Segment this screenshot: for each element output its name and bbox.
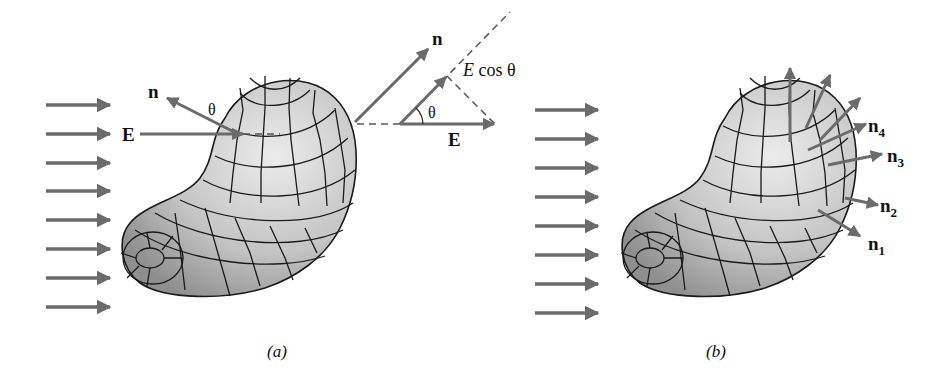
caption-a: (a)	[267, 342, 287, 361]
incident-field-arrows	[46, 105, 110, 307]
inset-angle-arc	[416, 108, 423, 124]
label-theta: θ	[208, 101, 216, 118]
label-n3: n3	[887, 145, 905, 170]
inset-component-vector	[400, 77, 446, 124]
panel-b: n4 n3 n2 n1 (b)	[535, 68, 905, 361]
label-n2: n2	[880, 195, 897, 220]
inset-label-n: n	[432, 28, 443, 49]
label-n1: n1	[868, 233, 885, 258]
label-e-cos-theta: E cos θ	[462, 60, 516, 80]
inset-label-theta: θ	[428, 104, 436, 121]
inset-dashed-projection	[447, 76, 495, 124]
inset-label-e: E	[448, 129, 461, 150]
label-e: E	[122, 124, 135, 145]
incident-field-arrows-b	[535, 110, 598, 313]
panel-a: n E θ n θ E E cos θ (a)	[46, 12, 516, 361]
gaussian-surface-b	[621, 76, 856, 296]
label-n4: n4	[868, 115, 886, 140]
caption-b: (b)	[706, 342, 726, 361]
gaussian-surface-a	[121, 76, 356, 296]
label-n: n	[148, 81, 159, 102]
inset-normal-n	[355, 49, 428, 122]
flux-diagram: n E θ n θ E E cos θ (a)	[0, 0, 946, 385]
